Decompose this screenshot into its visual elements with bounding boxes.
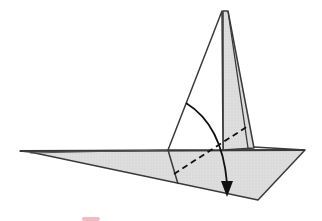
origami-diagram <box>0 0 322 221</box>
tall-flap-front <box>168 11 223 150</box>
base-flap <box>20 150 305 200</box>
tall-flap-back <box>223 11 254 150</box>
mark <box>82 217 100 221</box>
